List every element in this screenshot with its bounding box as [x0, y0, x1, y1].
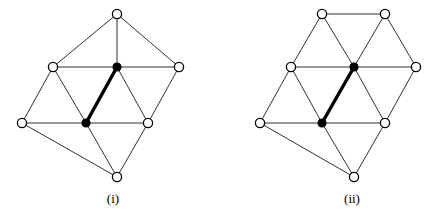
- graph-vertex-open: [349, 172, 358, 181]
- graph-vertex-filled: [318, 119, 326, 127]
- graph-edge: [354, 67, 385, 123]
- graph-vertex-filled: [350, 63, 358, 71]
- graph-vertex-open: [380, 118, 389, 127]
- graph-vertex-filled: [82, 119, 90, 127]
- graph-edge: [86, 123, 117, 177]
- graph-edge-bold: [86, 67, 117, 123]
- graph-edge: [291, 67, 322, 123]
- graph-edge: [385, 14, 416, 67]
- graph-edge: [354, 14, 385, 67]
- graph-edge: [117, 14, 179, 67]
- graph-vertex-open: [17, 118, 26, 127]
- graph-vertex-open: [380, 9, 389, 18]
- captions-layer: (i)(ii): [107, 191, 360, 206]
- graph-vertex-open: [112, 172, 121, 181]
- graph-vertex-open: [255, 118, 264, 127]
- graph-edge: [22, 123, 117, 177]
- graph-edge: [291, 14, 322, 67]
- graph-vertex-open: [112, 9, 121, 18]
- graph-vertex-open: [143, 118, 152, 127]
- graph-edge: [22, 67, 53, 123]
- graph-vertex-open: [48, 62, 57, 71]
- graph-vertex-open: [286, 62, 295, 71]
- vertices-layer: [17, 9, 420, 181]
- graph-vertex-open: [174, 62, 183, 71]
- graph-edge: [53, 14, 117, 67]
- graph-edge: [53, 67, 86, 123]
- graph-vertex-open: [317, 9, 326, 18]
- figure-panel: (i)(ii): [0, 0, 436, 217]
- graph-edge: [322, 14, 354, 67]
- graph-vertex-open: [411, 62, 420, 71]
- graph-edge: [260, 123, 354, 177]
- graph-edge-bold: [322, 67, 354, 123]
- graph-edge: [354, 123, 385, 177]
- graph-edge: [148, 67, 179, 123]
- graph-edge: [117, 123, 148, 177]
- graph-edge: [117, 67, 148, 123]
- graph-edge: [385, 67, 416, 123]
- graph-edge: [322, 123, 354, 177]
- graph-vertex-filled: [113, 63, 121, 71]
- figure-caption: (i): [107, 191, 119, 206]
- graph-edge: [260, 67, 291, 123]
- triangulation-diagram: (i)(ii): [0, 0, 436, 217]
- figure-caption: (ii): [344, 191, 360, 206]
- edges-layer: [22, 14, 416, 177]
